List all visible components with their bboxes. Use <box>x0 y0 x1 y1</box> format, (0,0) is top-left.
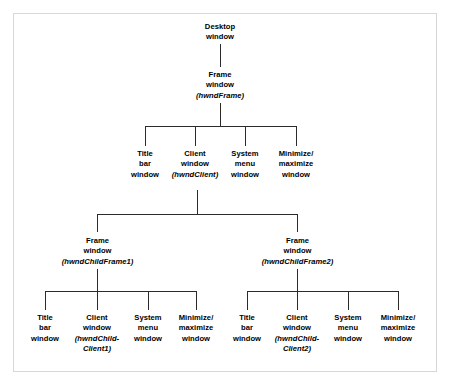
node-frame-window-handle: (hwndFrame) <box>180 91 260 101</box>
edge-child-frame-2-to-bus4 <box>297 269 298 291</box>
edge-bus4l-min-max <box>196 291 197 310</box>
bus-level4-left <box>45 291 197 292</box>
node-min-max-window-1-line3: window <box>269 170 323 180</box>
node-frame-window-line1: Frame <box>180 70 260 80</box>
node-client-window-1-line2: window <box>166 159 224 169</box>
node-frame-window: Frame window (hwndFrame) <box>180 70 260 101</box>
node-client-window-3-handle: (hwndChild-Client2) <box>268 334 326 355</box>
node-system-menu-window-3-line1: System <box>325 313 371 323</box>
edge-bus4l-client <box>97 291 98 310</box>
node-title-bar-window-3-line3: window <box>225 334 269 344</box>
node-desktop-window-line2: window <box>180 32 260 42</box>
node-title-bar-window-3-line2: bar <box>225 323 269 333</box>
node-client-window-3-line1: Client <box>268 313 326 323</box>
edge-bus2-min-max <box>296 126 297 146</box>
node-title-bar-window-2-line2: bar <box>23 323 67 333</box>
node-system-menu-window-2-line1: System <box>125 313 171 323</box>
node-title-bar-window-1-line1: Title <box>123 149 167 159</box>
node-system-menu-window-1-line2: menu <box>222 159 268 169</box>
node-title-bar-window-1-line3: window <box>123 170 167 180</box>
node-min-max-window-3-line1: Minimize/ <box>371 313 425 323</box>
node-title-bar-window-3: Title bar window <box>225 313 269 344</box>
node-client-window-1-handle: (hwndClient) <box>166 170 224 180</box>
node-client-window-3-line2: window <box>268 323 326 333</box>
node-system-menu-window-3-line3: window <box>325 334 371 344</box>
node-min-max-window-2-line3: window <box>169 334 223 344</box>
node-frame-window-line2: window <box>180 80 260 90</box>
node-system-menu-window-1: System menu window <box>222 149 268 180</box>
node-title-bar-window-3-line1: Title <box>225 313 269 323</box>
node-child-frame-window-2: Frame window (hwndChildFrame2) <box>245 236 350 267</box>
edge-bus3-child-frame-2 <box>297 214 298 232</box>
node-system-menu-window-2-line3: window <box>125 334 171 344</box>
edge-bus4r-min-max <box>398 291 399 310</box>
edge-client-to-bus3 <box>197 190 198 214</box>
node-min-max-window-1-line2: maximize <box>269 159 323 169</box>
edge-bus4l-title-bar <box>45 291 46 310</box>
node-system-menu-window-3: System menu window <box>325 313 371 344</box>
node-title-bar-window-2: Title bar window <box>23 313 67 344</box>
node-child-frame-window-1-handle: (hwndChildFrame1) <box>45 257 150 267</box>
node-min-max-window-2-line2: maximize <box>169 323 223 333</box>
bus-level2 <box>145 126 297 127</box>
edge-desktop-to-frame <box>220 44 221 67</box>
node-title-bar-window-2-line3: window <box>23 334 67 344</box>
node-client-window-1: Client window (hwndClient) <box>166 149 224 180</box>
node-min-max-window-2: Minimize/ maximize window <box>169 313 223 344</box>
node-system-menu-window-2: System menu window <box>125 313 171 344</box>
node-min-max-window-3-line3: window <box>371 334 425 344</box>
node-client-window-2-line2: window <box>68 323 126 333</box>
diagram-canvas: Desktop window Frame window (hwndFrame) … <box>0 0 452 389</box>
bus-level3 <box>97 214 298 215</box>
node-title-bar-window-1: Title bar window <box>123 149 167 180</box>
edge-bus2-client <box>195 126 196 146</box>
node-min-max-window-1-line1: Minimize/ <box>269 149 323 159</box>
edge-bus4r-client <box>297 291 298 310</box>
node-min-max-window-3: Minimize/ maximize window <box>371 313 425 344</box>
node-min-max-window-3-line2: maximize <box>371 323 425 333</box>
edge-bus2-system-menu <box>245 126 246 146</box>
node-min-max-window-1: Minimize/ maximize window <box>269 149 323 180</box>
node-client-window-2: Client window (hwndChild-Client1) <box>68 313 126 354</box>
node-child-frame-window-2-line2: window <box>245 246 350 256</box>
bus-level4-right <box>247 291 399 292</box>
node-system-menu-window-3-line2: menu <box>325 323 371 333</box>
edge-bus3-child-frame-1 <box>97 214 98 232</box>
edge-bus4l-system-menu <box>148 291 149 310</box>
node-child-frame-window-2-handle: (hwndChildFrame2) <box>245 257 350 267</box>
edge-bus4r-title-bar <box>247 291 248 310</box>
node-title-bar-window-1-line2: bar <box>123 159 167 169</box>
node-child-frame-window-1-line1: Frame <box>45 236 150 246</box>
node-client-window-2-line1: Client <box>68 313 126 323</box>
edge-child-frame-1-to-bus4 <box>97 269 98 291</box>
node-title-bar-window-2-line1: Title <box>23 313 67 323</box>
node-system-menu-window-1-line1: System <box>222 149 268 159</box>
edge-frame-to-bus2 <box>220 103 221 126</box>
node-min-max-window-2-line1: Minimize/ <box>169 313 223 323</box>
edge-bus2-title-bar <box>145 126 146 146</box>
node-system-menu-window-1-line3: window <box>222 170 268 180</box>
node-desktop-window-line1: Desktop <box>180 22 260 32</box>
node-client-window-1-line1: Client <box>166 149 224 159</box>
node-child-frame-window-2-line1: Frame <box>245 236 350 246</box>
node-system-menu-window-2-line2: menu <box>125 323 171 333</box>
node-desktop-window: Desktop window <box>180 22 260 43</box>
node-client-window-2-handle: (hwndChild-Client1) <box>68 334 126 355</box>
node-client-window-3: Client window (hwndChild-Client2) <box>268 313 326 354</box>
node-child-frame-window-1-line2: window <box>45 246 150 256</box>
edge-bus4r-system-menu <box>348 291 349 310</box>
node-child-frame-window-1: Frame window (hwndChildFrame1) <box>45 236 150 267</box>
